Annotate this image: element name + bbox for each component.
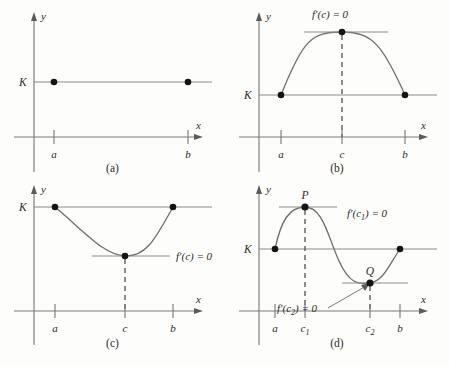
tick-label-b: b <box>170 322 176 334</box>
tick-label-a: a <box>52 322 58 334</box>
tick-label-c2: c2 <box>366 322 375 337</box>
panel-caption-a: (a) <box>0 162 225 174</box>
point-label-q: Q <box>366 265 375 277</box>
figure-grid: y x K a b (a) <box>0 0 449 367</box>
y-axis-label: y <box>265 10 271 22</box>
k-label: K <box>18 76 28 88</box>
x-axis-label: x <box>420 119 426 131</box>
panel-b: y x K f′(c) = 0 a c b (b) <box>225 0 449 185</box>
y-axis-label: y <box>40 185 46 195</box>
panel-caption-c: (c) <box>0 337 225 349</box>
point-label-p: P <box>300 189 308 201</box>
derivative-label-c1: f′(c1) = 0 <box>347 207 388 222</box>
tick-label-a: a <box>272 322 278 334</box>
tick-label-b: b <box>185 148 191 160</box>
panel-caption-b: (b) <box>225 162 449 174</box>
panel-caption-d: (d) <box>225 337 449 349</box>
derivative-label-c: f′(c) = 0 <box>176 250 213 263</box>
derivative-label-c2: f′(c2) = 0 <box>277 302 318 317</box>
x-axis-label: x <box>195 293 201 305</box>
panel-c: y x K f′(c) = 0 a c b (c) <box>0 185 225 367</box>
panel-d: y x K P Q f′(c1) = 0 f′(c2) = 0 a c1 c2 … <box>225 185 449 367</box>
y-axis-label: y <box>265 185 271 195</box>
tick-label-b: b <box>402 148 408 160</box>
x-axis-label: x <box>420 293 426 305</box>
y-axis-label: y <box>40 10 46 22</box>
tick-label-c1: c1 <box>301 322 310 337</box>
tick-label-c: c <box>340 148 345 160</box>
k-label: K <box>18 201 28 213</box>
tick-label-c: c <box>123 322 128 334</box>
derivative-label-c: f′(c) = 0 <box>312 8 349 21</box>
x-axis-label: x <box>195 119 201 131</box>
k-label: K <box>243 89 253 101</box>
tick-label-a: a <box>51 148 57 160</box>
k-label: K <box>243 243 253 255</box>
tick-label-b: b <box>397 322 403 334</box>
tick-label-a: a <box>278 148 284 160</box>
panel-a: y x K a b (a) <box>0 0 225 185</box>
